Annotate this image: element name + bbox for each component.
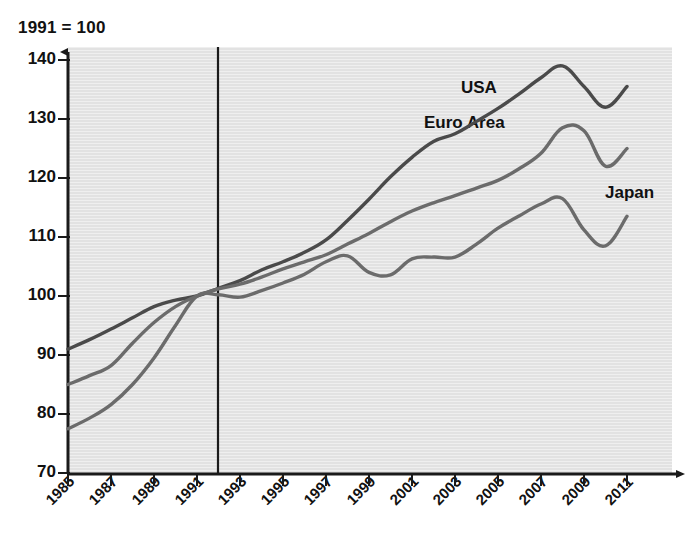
series-line-usa	[68, 66, 627, 349]
series-lines	[68, 66, 627, 429]
axis-tick-marks	[58, 60, 627, 486]
series-line-japan	[68, 197, 627, 429]
chart-canvas	[0, 0, 698, 546]
line-chart: 1991 = 100 708090100110120130140 1985198…	[0, 0, 698, 546]
